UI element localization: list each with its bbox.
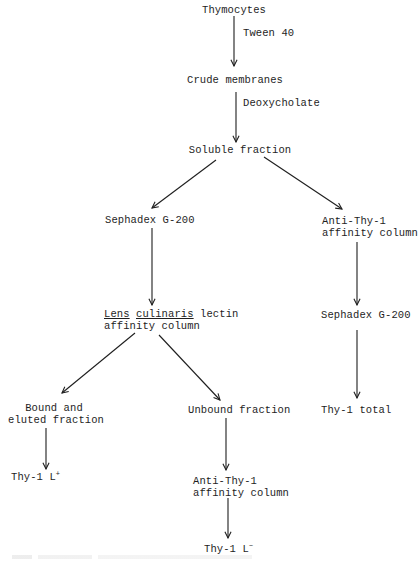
lectin-word: lectin xyxy=(200,308,238,320)
lens-word: Lens xyxy=(104,308,130,320)
culinaris-word: culinaris xyxy=(136,308,194,320)
node-thy1-lplus-sup: + xyxy=(56,470,60,478)
node-lens-culinaris-column: Lens culinaris lectin affinity column xyxy=(104,308,238,332)
arrow-lens-to-bound xyxy=(62,333,135,393)
edge-label-tween-text: Tween 40 xyxy=(243,27,294,39)
node-lens-line2: affinity column xyxy=(104,320,238,332)
arrow-lens-to-unbound xyxy=(159,335,220,400)
node-sephadex-right-label: Sephadex G-200 xyxy=(321,309,411,321)
cropped-caption-strip xyxy=(12,555,252,559)
node-thy1-lminus-base: Thy-1 L xyxy=(204,543,249,555)
node-thymocytes: Thymocytes xyxy=(194,4,274,16)
node-bound-line2: eluted fraction xyxy=(8,414,100,426)
edge-label-deoxycholate: Deoxycholate xyxy=(243,97,320,109)
node-soluble-fraction: Soluble fraction xyxy=(180,144,300,156)
node-crude-membranes-label: Crude membranes xyxy=(175,74,295,86)
node-soluble-fraction-label: Soluble fraction xyxy=(180,144,300,156)
node-lens-line1: Lens culinaris lectin xyxy=(104,308,238,320)
arrow-soluble-to-sephadex-left xyxy=(152,160,216,208)
node-sephadex-left-label: Sephadex G-200 xyxy=(105,214,195,226)
node-thy1-total: Thy-1 total xyxy=(321,404,391,416)
node-bound-line1: Bound and xyxy=(8,402,100,414)
node-thy1-lplus: Thy-1 L+ xyxy=(11,471,60,483)
node-antithy1-lower: Anti-Thy-1 affinity column xyxy=(193,475,289,499)
node-unbound-fraction: Unbound fraction xyxy=(188,404,290,416)
node-crude-membranes: Crude membranes xyxy=(175,74,295,86)
edge-label-deoxycholate-text: Deoxycholate xyxy=(243,97,320,109)
node-sephadex-left: Sephadex G-200 xyxy=(105,214,195,226)
node-bound-eluted: Bound and eluted fraction xyxy=(8,402,100,426)
arrow-soluble-to-antithy1-right xyxy=(264,157,342,209)
node-thy1-lplus-base: Thy-1 L xyxy=(11,471,56,483)
node-thy1-lminus-sup: − xyxy=(249,542,253,550)
node-unbound-label: Unbound fraction xyxy=(188,404,290,416)
node-sephadex-right: Sephadex G-200 xyxy=(321,309,411,321)
node-antithy1-right-line2: affinity column xyxy=(322,227,418,239)
node-antithy1-right: Anti-Thy-1 affinity column xyxy=(322,215,418,239)
edge-label-tween: Tween 40 xyxy=(243,27,294,39)
node-antithy1-lower-line1: Anti-Thy-1 xyxy=(193,475,289,487)
node-thy1-total-label: Thy-1 total xyxy=(321,404,391,416)
node-thy1-lminus: Thy-1 L− xyxy=(204,543,253,555)
node-antithy1-lower-line2: affinity column xyxy=(193,487,289,499)
node-antithy1-right-line1: Anti-Thy-1 xyxy=(322,215,418,227)
node-thymocytes-label: Thymocytes xyxy=(194,4,274,16)
